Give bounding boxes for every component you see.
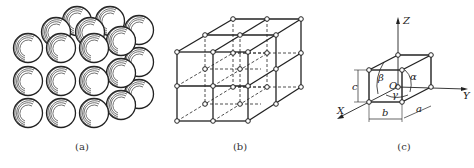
caption-b: (b) [233, 141, 247, 152]
edge-c-label: c [352, 81, 358, 92]
edge-b-label: b [382, 107, 388, 118]
angle-beta-label: β [377, 72, 384, 83]
z-axis-label: Z [402, 15, 411, 26]
panel-b-lattice [175, 17, 304, 124]
panel-c-unit-cell [337, 17, 468, 122]
angle-gamma-label: γ [392, 89, 398, 100]
y-axis-label: Y [463, 90, 471, 101]
edge-a-label: a [416, 103, 422, 114]
caption-c: (c) [397, 141, 410, 152]
x-axis-label: X [336, 105, 345, 116]
panel-a-atom-packing [14, 7, 154, 128]
angle-alpha-label: α [410, 71, 417, 82]
caption-a: (a) [75, 141, 89, 152]
